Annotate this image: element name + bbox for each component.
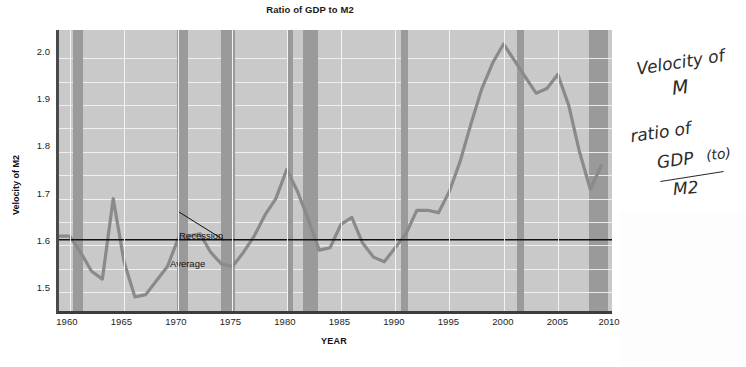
chart-figure: Ratio of GDP to M2 Velocity of M2 2.0 1.… [0,0,620,367]
x-tick-2010: 2010 [598,316,619,327]
y-tick-1.7: 1.7 [6,187,50,198]
series-layer [59,30,612,311]
x-axis-label: YEAR [56,336,612,346]
x-tick-1960: 1960 [56,316,77,327]
chart-title: Ratio of GDP to M2 [0,4,620,15]
annotation-recession: Recession [179,230,223,241]
plot-box: Recession Average [56,30,612,314]
gridline-vertical [558,30,559,311]
y-tick-1.9: 1.9 [6,93,50,104]
gridline-vertical [341,30,342,311]
y-tick-1.5: 1.5 [6,282,50,293]
gridline-vertical [178,30,179,311]
screenshot-root: Ratio of GDP to M2 Velocity of M2 2.0 1.… [0,0,746,367]
y-axis-label: Velocity of M2 [11,145,21,225]
x-tick-2000: 2000 [492,316,513,327]
annotation-average: Average [170,258,205,269]
x-tick-1970: 1970 [165,316,186,327]
x-tick-2005: 2005 [547,316,568,327]
handwriting-ratio-of: ratio of [629,118,692,146]
data-series-line [59,44,601,297]
gridline-vertical [449,30,450,311]
y-tick-1.8: 1.8 [6,140,50,151]
gridline-vertical [232,30,233,311]
plot-inner: Recession Average [59,30,612,311]
handwriting-to-paren: (to) [705,145,732,164]
x-tick-1980: 1980 [274,316,295,327]
plot-area: Recession Average [56,30,612,314]
handwriting-gdp: GDP [656,148,695,172]
gridline-vertical [395,30,396,311]
x-axis-ticks: 1960 1965 1970 1975 1980 1985 1990 1995 … [56,316,612,332]
y-tick-2.0: 2.0 [6,45,50,56]
gridline-vertical [70,30,71,311]
gridline-vertical [504,30,505,311]
x-tick-1995: 1995 [438,316,459,327]
x-tick-1965: 1965 [111,316,132,327]
y-tick-1.6: 1.6 [6,235,50,246]
x-tick-1975: 1975 [220,316,241,327]
x-tick-1990: 1990 [383,316,404,327]
handwriting-m2: M2 [672,177,699,199]
handwriting-velocity-of: Velocity of [635,45,726,79]
handwriting-m: M [671,75,690,99]
y-axis-ticks: Velocity of M2 2.0 1.9 1.8 1.7 1.6 1.5 [0,30,50,314]
gridline-vertical [124,30,125,311]
x-tick-1985: 1985 [329,316,350,327]
gridline-vertical [287,30,288,311]
page-margin [620,212,746,367]
